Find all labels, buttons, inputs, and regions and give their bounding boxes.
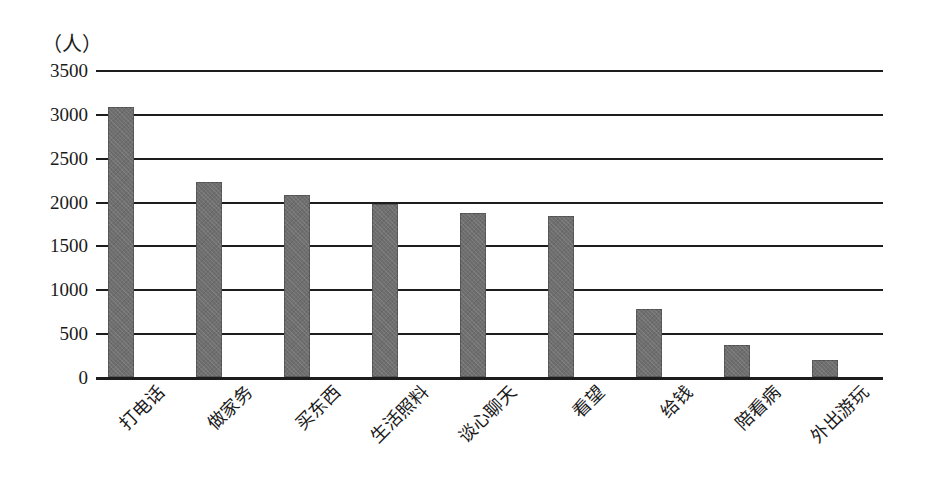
- bar: [372, 204, 398, 377]
- x-tick-label-2: 买东西: [245, 382, 344, 481]
- x-tick-label-3: 生活照料: [333, 382, 432, 481]
- bar: [284, 195, 310, 377]
- gridline-3000: [96, 114, 883, 116]
- gridline-2500: [96, 158, 883, 160]
- x-tick-label-1: 做家务: [157, 382, 256, 481]
- y-tick-label: 0: [30, 368, 88, 387]
- bar: [548, 216, 574, 377]
- y-tick-label: 2000: [30, 192, 88, 211]
- y-tick-label: 2500: [30, 148, 88, 167]
- y-tick-label: 1500: [30, 236, 88, 255]
- gridline-3500: [96, 70, 883, 72]
- x-tick-label-5: 看望: [509, 382, 608, 481]
- bar: [196, 182, 222, 377]
- x-tick-label-6: 给钱: [597, 382, 696, 481]
- x-tick-label-4: 谈心聊天: [421, 382, 520, 481]
- x-axis-category-labels: 打电话 做家务 买东西 生活照料 谈心聊天 看望 给钱 陪看病 外出游玩: [96, 382, 926, 489]
- x-tick-label-8: 外出游玩: [773, 382, 872, 481]
- bar: [108, 107, 134, 377]
- bar: [460, 213, 486, 377]
- bar: [724, 345, 750, 377]
- bar-chart: （人） 3500 3000 2500 2000 1500 1000 500 0 …: [0, 0, 926, 489]
- y-axis-unit-label: （人）: [42, 28, 102, 57]
- bar: [812, 360, 838, 377]
- x-tick-label-0: 打电话: [69, 382, 168, 481]
- y-tick-label: 3000: [30, 104, 88, 123]
- y-tick-label: 3500: [30, 61, 88, 80]
- y-tick-label: 500: [30, 324, 88, 343]
- plot-area: [96, 70, 883, 377]
- bar: [636, 309, 662, 377]
- x-axis-baseline: [96, 377, 883, 380]
- x-tick-label-7: 陪看病: [685, 382, 784, 481]
- y-tick-label: 1000: [30, 280, 88, 299]
- y-axis-tick-labels: 3500 3000 2500 2000 1500 1000 500 0: [30, 70, 88, 377]
